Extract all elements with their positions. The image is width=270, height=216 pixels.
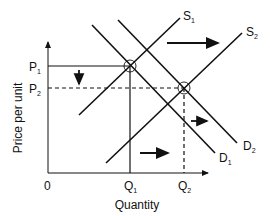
supply-curve-s2 <box>106 33 242 163</box>
d1-label: D1 <box>219 151 232 166</box>
x-axis-label: Quantity <box>115 198 160 212</box>
p1-label: P1 <box>29 60 41 75</box>
s2-label: S2 <box>246 25 258 40</box>
q2-label: Q2 <box>178 179 191 194</box>
y-axis-label: Price per unit <box>11 82 25 153</box>
s1-label: S1 <box>183 9 195 24</box>
origin-label: 0 <box>44 179 51 193</box>
p2-label: P2 <box>29 82 41 97</box>
supply-demand-diagram: P1 P2 Q1 Q2 0 Quantity Price per unit S1… <box>0 0 270 216</box>
q1-label: Q1 <box>124 179 137 194</box>
demand-curve-d2 <box>118 20 237 143</box>
d2-label: D2 <box>243 139 256 154</box>
